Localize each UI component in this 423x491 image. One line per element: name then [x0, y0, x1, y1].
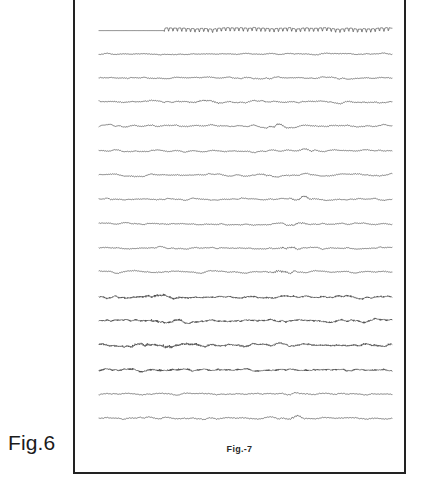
waveform-trace	[99, 294, 392, 300]
waveform-trace	[99, 173, 392, 177]
waveform-trace	[99, 124, 392, 129]
traces-group	[99, 27, 392, 419]
waveform-trace	[99, 246, 392, 249]
waveform-trace	[99, 53, 392, 55]
waveform-trace	[99, 368, 392, 372]
waveform-trace	[99, 342, 392, 348]
waveform-trace	[99, 27, 392, 32]
waveform-trace	[99, 148, 392, 152]
waveform-trace	[99, 318, 392, 324]
outer-figure-label: Fig.6	[8, 432, 55, 453]
waveform-trace	[99, 222, 392, 225]
waveform-trace	[99, 270, 392, 274]
patent-figure-plate: Fig.-7	[73, 0, 406, 474]
waveform-trace	[99, 415, 392, 419]
plate-inner: Fig.-7	[75, 0, 404, 472]
waveform-trace	[99, 196, 392, 201]
inner-figure-caption: Fig.-7	[75, 444, 404, 454]
figure-root: Fig.6 Fig.-7	[0, 0, 423, 491]
waveform-trace	[99, 100, 392, 104]
waveform-trace	[99, 393, 392, 396]
waveform-trace	[99, 77, 392, 80]
waveform-trace-canvas	[75, 0, 406, 474]
